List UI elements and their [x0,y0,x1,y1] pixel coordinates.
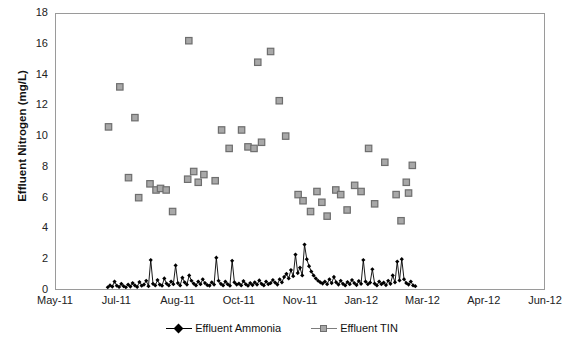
x-tick-label: Aug-11 [148,295,208,306]
legend-item-ammonia[interactable]: Effluent Ammonia [166,322,281,334]
x-tick-label: Oct-11 [209,295,269,306]
ammonia-line-swatch [166,323,192,333]
plot-area [55,13,545,290]
y-tick-label: 8 [14,161,48,172]
x-tick-label: Jul-11 [86,295,146,306]
legend-label-tin: Effluent TIN [340,322,398,334]
legend-item-tin[interactable]: Effluent TIN [311,322,398,334]
x-tick-label: Apr-12 [454,295,514,306]
legend-label-ammonia: Effluent Ammonia [195,322,281,334]
y-tick-label: 6 [14,192,48,203]
tin-line-swatch [311,323,337,333]
y-tick-label: 18 [14,7,48,18]
y-tick-label: 12 [14,99,48,110]
x-tick-label: Mar-12 [393,295,453,306]
y-tick-label: 14 [14,69,48,80]
chart-legend: Effluent Ammonia Effluent TIN [0,322,564,334]
y-tick-label: 10 [14,130,48,141]
square-marker-icon [320,325,327,332]
chart-container: Effluent Nitrogen (mg/L) 024681012141618… [0,0,564,346]
x-tick-label: Jan-12 [331,295,391,306]
y-tick-label: 16 [14,38,48,49]
x-tick-label: Nov-11 [270,295,330,306]
diamond-marker-icon [174,324,184,334]
x-tick-label: Jun-12 [515,295,564,306]
y-tick-label: 2 [14,253,48,264]
y-tick-label: 4 [14,222,48,233]
x-tick-label: May-11 [25,295,85,306]
